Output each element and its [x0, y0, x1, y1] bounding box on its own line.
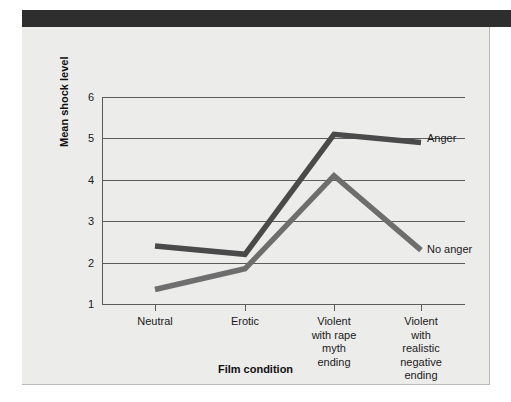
x-tick-label-erotic: Erotic [199, 315, 291, 329]
y-tick-label-4: 4 [68, 175, 94, 186]
chart-panel: Mean shock level Film condition 6 5 4 3 … [22, 27, 490, 385]
x-tick-label-violent-rape-myth: Violent with rape myth ending [288, 315, 380, 369]
y-tick-label-2: 2 [68, 258, 94, 269]
series-label-anger: Anger [427, 132, 456, 144]
header-band [22, 10, 511, 27]
y-tick-label-3: 3 [68, 216, 94, 227]
x-tick-2 [245, 305, 246, 311]
x-tick-4 [421, 305, 422, 311]
series-label-no-anger: No anger [427, 243, 472, 255]
plot-area: 6 5 4 3 2 1 Neutral Erotic Violent with … [102, 97, 465, 304]
x-tick-3 [334, 305, 335, 311]
y-tick-label-6: 6 [68, 92, 94, 103]
y-tick-label-1: 1 [68, 299, 94, 310]
figure-container: Mean shock level Film condition 6 5 4 3 … [0, 0, 511, 402]
y-tick-label-5: 5 [68, 133, 94, 144]
x-tick-1 [155, 305, 156, 311]
line-anger [155, 134, 421, 254]
x-tick-label-neutral: Neutral [109, 315, 201, 329]
series-lines [102, 97, 465, 305]
x-tick-label-violent-realistic: Violent with realistic negative ending [375, 315, 467, 383]
